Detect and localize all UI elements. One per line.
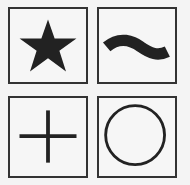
star-icon	[10, 9, 86, 82]
tile-plus[interactable]	[8, 96, 88, 178]
circle-icon	[99, 98, 175, 176]
tilde-icon	[99, 9, 175, 82]
tile-tilde[interactable]	[97, 7, 177, 84]
tile-circle[interactable]	[97, 96, 177, 178]
tile-star[interactable]	[8, 7, 88, 84]
plus-icon	[10, 98, 86, 176]
